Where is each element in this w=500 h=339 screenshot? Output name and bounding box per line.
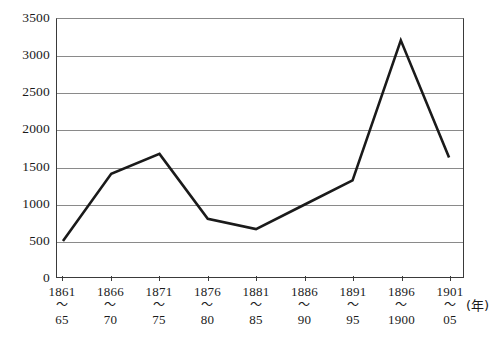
y-tick-label-1500: 1500 bbox=[2, 160, 50, 174]
x-tick-label-8: 1901〜05 bbox=[415, 284, 485, 327]
x-tick-year-start: 1901 bbox=[415, 284, 485, 299]
x-tick-mark-0 bbox=[62, 276, 63, 281]
y-tick-label-500: 500 bbox=[2, 234, 50, 248]
x-tick-mark-4 bbox=[256, 276, 257, 281]
y-tick-label-1000: 1000 bbox=[2, 197, 50, 211]
y-tick-label-2000: 2000 bbox=[2, 122, 50, 136]
x-tick-year-end: 05 bbox=[415, 312, 485, 327]
x-axis: (年) 1861〜651866〜701871〜751876〜801881〜851… bbox=[0, 281, 500, 339]
x-tick-mark-1 bbox=[111, 276, 112, 281]
x-tick-mark-8 bbox=[450, 276, 451, 281]
series-line-group bbox=[57, 19, 463, 277]
x-tick-mark-5 bbox=[305, 276, 306, 281]
x-tick-range-wave: 〜 bbox=[415, 299, 485, 312]
y-tick-label-2500: 2500 bbox=[2, 85, 50, 99]
y-tick-label-3500: 3500 bbox=[2, 11, 50, 25]
line-chart: 3500300025002000150010005000 (年) 1861〜65… bbox=[0, 0, 500, 339]
x-tick-mark-2 bbox=[159, 276, 160, 281]
y-tick-label-3000: 3000 bbox=[2, 48, 50, 62]
x-tick-mark-6 bbox=[353, 276, 354, 281]
x-tick-mark-3 bbox=[208, 276, 209, 281]
x-tick-mark-7 bbox=[402, 276, 403, 281]
y-axis: 3500300025002000150010005000 bbox=[0, 18, 50, 278]
series-1-line bbox=[63, 40, 449, 241]
plot-area bbox=[56, 18, 464, 278]
